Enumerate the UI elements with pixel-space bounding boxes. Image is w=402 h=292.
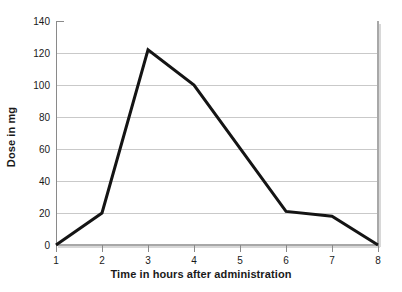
gridlines (56, 53, 378, 213)
x-tick-label-1: 1 (53, 255, 59, 266)
x-tick-label-7: 7 (329, 255, 335, 266)
x-axis-group (56, 245, 380, 247)
plot-area: 140 120 100 80 60 40 20 0 1 2 3 4 5 6 7 … (0, 0, 402, 292)
y-tick-label-0: 0 (44, 240, 50, 251)
x-tick-label-3: 3 (145, 255, 151, 266)
y-tick-label-40: 40 (39, 176, 51, 187)
y-axis-ticks (56, 21, 64, 245)
x-tick-label-2: 2 (99, 255, 105, 266)
line-chart: Dose in mg (0, 0, 402, 292)
y-tick-label-20: 20 (39, 208, 51, 219)
y-tick-labels: 140 120 100 80 60 40 20 0 (33, 16, 50, 251)
y-tick-label-60: 60 (39, 144, 51, 155)
y-tick-label-140: 140 (33, 16, 50, 27)
x-axis-title: Time in hours after administration (0, 268, 402, 280)
y-tick-label-80: 80 (39, 112, 51, 123)
y-tick-label-120: 120 (33, 48, 50, 59)
x-tick-labels: 1 2 3 4 5 6 7 8 (53, 255, 381, 266)
right-spine-group (378, 21, 380, 247)
x-tick-label-6: 6 (283, 255, 289, 266)
x-tick-label-5: 5 (237, 255, 243, 266)
x-tick-label-8: 8 (375, 255, 381, 266)
y-tick-label-100: 100 (33, 80, 50, 91)
data-series-line (56, 50, 378, 245)
x-tick-label-4: 4 (191, 255, 197, 266)
